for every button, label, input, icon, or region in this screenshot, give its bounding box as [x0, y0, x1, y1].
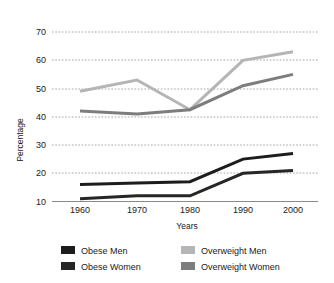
x-axis-title: Years — [176, 221, 197, 231]
legend-item-obese-women: Obese Women — [61, 262, 141, 272]
y-tick-label-20: 20 — [36, 168, 46, 178]
x-tick-label-2000: 2000 — [283, 205, 303, 215]
y-tick-label-60: 60 — [36, 55, 46, 65]
x-tick-label-1970: 1970 — [127, 205, 147, 215]
legend-label-obese-men: Obese Men — [81, 246, 128, 256]
y-tick-label-50: 50 — [36, 84, 46, 94]
legend-label-overweight-men: Overweight Men — [201, 246, 267, 256]
legend-item-obese-men: Obese Men — [61, 246, 128, 256]
line-chart: 70 60 50 40 30 20 10 Percentage 1960 197… — [0, 0, 334, 283]
y-tick-label-40: 40 — [36, 112, 46, 122]
legend-swatch-overweight-women — [181, 262, 195, 270]
legend-item-overweight-men: Overweight Men — [181, 246, 267, 256]
chart-background — [0, 0, 334, 283]
legend-label-obese-women: Obese Women — [81, 262, 141, 272]
y-tick-label-30: 30 — [36, 140, 46, 150]
x-tick-label-1990: 1990 — [233, 205, 253, 215]
y-tick-label-70: 70 — [36, 27, 46, 37]
legend-swatch-obese-men — [61, 246, 75, 254]
x-tick-label-1960: 1960 — [70, 205, 90, 215]
legend-swatch-obese-women — [61, 262, 75, 270]
y-tick-label-10: 10 — [36, 197, 46, 207]
chart-container: 70 60 50 40 30 20 10 Percentage 1960 197… — [0, 0, 334, 283]
y-axis-title: Percentage — [15, 118, 25, 162]
x-tick-label-1980: 1980 — [180, 205, 200, 215]
legend-label-overweight-women: Overweight Women — [201, 262, 280, 272]
legend-swatch-overweight-men — [181, 246, 195, 254]
